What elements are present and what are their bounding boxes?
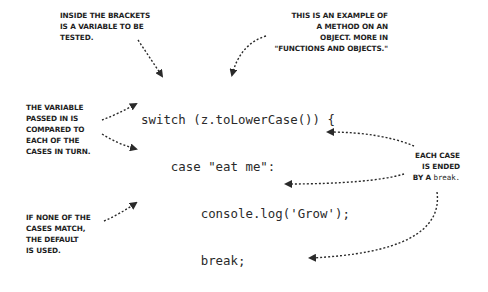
arrow-break-3 [310, 192, 437, 258]
arrow-variable-drink [102, 134, 136, 149]
arrow-method [232, 36, 266, 75]
arrow-variable-eat [102, 104, 136, 120]
arrow-break-1 [328, 132, 414, 146]
arrow-break-2 [286, 174, 404, 184]
arrow-default [104, 203, 136, 221]
annotation-arrows [0, 0, 488, 292]
arrow-brackets [138, 40, 162, 76]
